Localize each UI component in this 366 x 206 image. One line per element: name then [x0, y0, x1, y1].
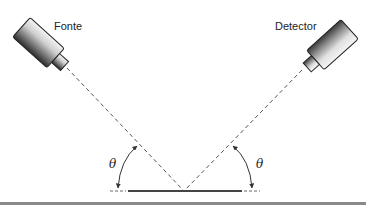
diffraction-diagram: Fonte Detector θ θ: [0, 0, 366, 206]
angle-arc-right: [233, 146, 252, 188]
incident-beam: [67, 68, 184, 191]
bottom-divider: [0, 202, 366, 205]
angle-label-right: θ: [256, 157, 263, 171]
angle-arc-left: [118, 146, 137, 188]
source-label: Fonte: [54, 20, 82, 32]
diffracted-beam: [184, 70, 302, 191]
angle-label-left: θ: [109, 157, 116, 171]
detector-label: Detector: [275, 20, 317, 32]
